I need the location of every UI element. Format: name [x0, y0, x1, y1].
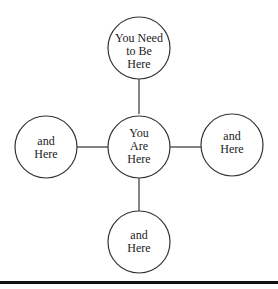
node-top-line-1: You Need	[115, 31, 163, 45]
node-left-line-1: and	[37, 134, 54, 148]
node-left: and Here	[15, 116, 77, 178]
node-center: You Are Here	[108, 116, 170, 178]
bottom-rule	[0, 281, 278, 284]
node-left-line-2: Here	[34, 147, 57, 161]
node-top-line-3: Here	[127, 57, 150, 71]
node-center-line-1: You	[129, 126, 148, 140]
node-bottom-line-1: and	[130, 228, 147, 242]
node-right-line-1: and	[223, 129, 240, 143]
node-right-line-2: Here	[220, 142, 243, 156]
hub-diagram: You Need to Be Here You Are Here and Her…	[0, 0, 278, 289]
node-center-line-2: Are	[130, 139, 148, 153]
node-top-line-2: to Be	[126, 44, 152, 58]
node-bottom: and Here	[108, 211, 170, 273]
node-right: and Here	[201, 114, 263, 176]
node-bottom-line-2: Here	[127, 241, 150, 255]
node-center-line-3: Here	[127, 152, 150, 166]
node-top: You Need to Be Here	[108, 17, 170, 79]
